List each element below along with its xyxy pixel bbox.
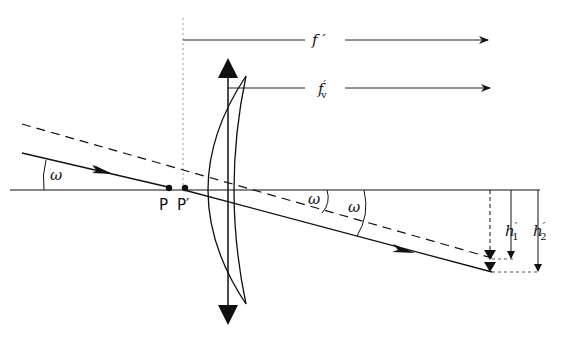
principal-point-P-label: P bbox=[159, 196, 168, 214]
lens-diagram: f ′ f′v P P′ ω ω ω bbox=[0, 0, 566, 338]
angle-label-mid1: ω bbox=[308, 190, 320, 208]
angle-label-mid2: ω bbox=[348, 198, 360, 216]
angle-arc-mid1 bbox=[322, 190, 328, 213]
vertex-focal-length-dimension: f′v bbox=[228, 78, 490, 100]
height-h1-label: h′1 bbox=[505, 220, 519, 242]
angle-label-left: ω bbox=[50, 166, 62, 184]
ray-arrowhead-2 bbox=[392, 244, 415, 253]
outgoing-ray bbox=[184, 190, 492, 272]
height-h2-label: h′2 bbox=[533, 220, 547, 242]
principal-point-P-prime bbox=[182, 185, 188, 191]
principal-point-P-prime-label: P′ bbox=[177, 196, 190, 214]
dashed-ray bbox=[22, 124, 492, 258]
lens-arrow-up-icon bbox=[218, 58, 238, 78]
vertex-focal-length-label: f′v bbox=[317, 78, 327, 100]
focal-length-dimension: f ′ bbox=[183, 31, 488, 49]
image-height-markers: h′1 h′2 bbox=[484, 190, 547, 272]
focal-length-label: f ′ bbox=[311, 31, 326, 49]
lens-arrow-down-icon bbox=[218, 305, 238, 325]
optics-diagram-canvas: f ′ f′v P P′ ω ω ω bbox=[0, 0, 566, 338]
angle-arc-left bbox=[43, 160, 46, 190]
principal-point-P bbox=[166, 185, 172, 191]
